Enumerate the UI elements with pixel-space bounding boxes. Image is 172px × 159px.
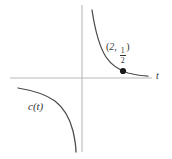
point-label-close-paren: ) bbox=[126, 41, 129, 52]
fraction-denominator: 2 bbox=[120, 55, 126, 64]
point-coordinate-label: (2, 12) bbox=[106, 42, 130, 65]
point-label-fraction: 12 bbox=[120, 47, 126, 65]
hyperbola-figure: (2, 12) t c(t) bbox=[0, 0, 172, 159]
marked-point-dot bbox=[120, 68, 126, 74]
horizontal-axis-label: t bbox=[156, 71, 159, 81]
fraction-numerator: 1 bbox=[120, 47, 126, 55]
curve-lower-left-branch bbox=[18, 88, 76, 152]
curve-name-label: c(t) bbox=[28, 101, 43, 112]
point-label-comma: , bbox=[114, 41, 119, 52]
graph-canvas bbox=[0, 0, 172, 159]
